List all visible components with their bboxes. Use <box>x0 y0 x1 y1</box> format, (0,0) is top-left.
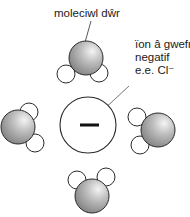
oxygen-atom <box>1 110 35 144</box>
water-molecule-left <box>1 103 44 152</box>
oxygen-atom <box>69 41 103 75</box>
negative-ion <box>60 97 116 153</box>
oxygen-atom <box>141 113 175 147</box>
hydration-diagram <box>0 0 190 217</box>
negative-ion-label: ïon â gwefr negatif e.e. Cl⁻ <box>135 38 190 77</box>
minus-sign-icon <box>80 124 99 127</box>
ion-label-line-3: e.e. Cl⁻ <box>135 64 190 77</box>
water-molecule-top <box>57 41 108 83</box>
water-molecule-right <box>128 108 175 154</box>
ion-label-line-1: ïon â gwefr <box>135 38 190 51</box>
water-molecule-bottom <box>68 168 115 213</box>
oxygen-atom <box>75 179 109 213</box>
ion-label-line-2: negatif <box>135 51 190 64</box>
water-molecule-label: moleciwl dŵr <box>54 7 120 20</box>
